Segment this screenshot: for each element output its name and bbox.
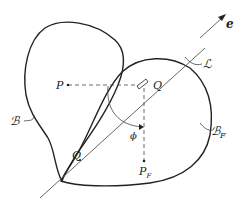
point-pf bbox=[143, 160, 146, 163]
label-e: e bbox=[226, 17, 234, 31]
label-l: ℒ bbox=[203, 57, 212, 71]
label-phi: ϕ bbox=[130, 130, 137, 141]
label-b: ℬ bbox=[10, 114, 21, 128]
q-arrow-marker-icon bbox=[137, 79, 148, 89]
diagram-canvas: e ℒ P Q Q ℬ ℬF ϕ PF bbox=[0, 0, 244, 206]
label-q-bottom: Q bbox=[72, 149, 81, 162]
label-bf: ℬF bbox=[211, 124, 226, 140]
point-p bbox=[67, 84, 70, 87]
body-bf-outline bbox=[61, 59, 211, 186]
label-q-top: Q bbox=[153, 79, 162, 92]
phi-arrow-head-icon bbox=[139, 124, 144, 130]
label-p: P bbox=[55, 79, 64, 92]
b-leader bbox=[24, 115, 34, 121]
e-vector-shaft bbox=[200, 17, 223, 38]
label-pf: PF bbox=[138, 165, 152, 180]
